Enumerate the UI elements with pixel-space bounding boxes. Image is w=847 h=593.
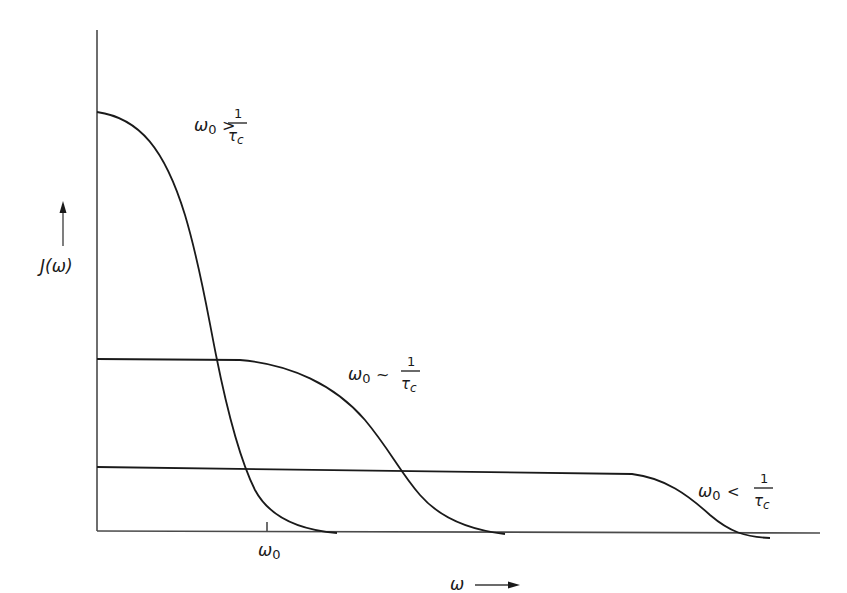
svg-text:<: < [727,483,740,501]
spectral-density-chart: ω0 ω0 > 1 τc ω0 ~ 1 τc ω0 < 1 τc J(ω) ω [0,0,847,593]
svg-text:τc: τc [401,375,417,395]
svg-text:1: 1 [234,106,242,121]
svg-text:ω0: ω0 [194,115,217,137]
svg-text:τc: τc [754,492,770,512]
omega0-tick-label: ω0 [258,540,281,562]
svg-text:1: 1 [760,471,768,486]
curve-omega0-less [97,467,770,538]
svg-text:ω: ω [450,574,464,593]
curve1-label: ω0 > 1 τc [194,106,247,147]
svg-text:1: 1 [407,354,415,369]
arrow-up-icon [60,201,67,213]
svg-text:ω0: ω0 [348,364,371,386]
arrow-right-icon [508,582,520,589]
svg-text:τc: τc [228,127,244,147]
curve3-label: ω0 < 1 τc [698,471,773,512]
svg-text:J(ω): J(ω) [37,256,73,276]
svg-text:ω0: ω0 [698,481,721,503]
svg-text:~: ~ [376,365,389,384]
curve2-label: ω0 ~ 1 τc [348,354,420,395]
x-axis [97,531,820,533]
curve-omega0-similar [97,359,505,534]
y-axis-label: J(ω) [37,201,73,276]
x-axis-label: ω [450,574,520,593]
